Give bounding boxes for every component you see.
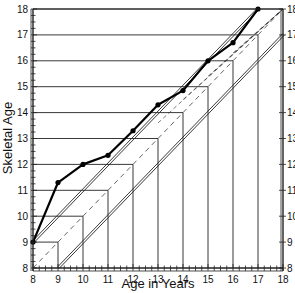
data-point	[130, 128, 135, 133]
x-axis-label: Age in Years	[121, 276, 195, 291]
upper-bound-line	[33, 8, 258, 241]
y-tick-label-right: 12	[287, 159, 295, 170]
y-tick-label-left: 16	[17, 55, 29, 66]
x-tick-label: 8	[30, 274, 36, 285]
y-tick-label-right: 8	[287, 263, 293, 274]
data-point	[80, 162, 85, 167]
data-point	[205, 58, 210, 63]
y-tick-label-right: 17	[287, 29, 295, 40]
y-tick-label-right: 11	[287, 185, 295, 196]
data-line	[33, 9, 258, 242]
y-tick-label-right: 15	[287, 81, 295, 92]
data-series	[30, 6, 260, 244]
y-tick-label-left: 10	[17, 211, 29, 222]
y-tick-label-right: 14	[287, 107, 295, 118]
y-tick-label-right: 16	[287, 55, 295, 66]
y-tick-label-left: 8	[22, 263, 28, 274]
x-tick-label: 16	[227, 274, 239, 285]
y-tick-label-left: 14	[17, 107, 29, 118]
data-point	[55, 180, 60, 185]
x-tick-label: 10	[77, 274, 89, 285]
y-tick-label-right: 10	[287, 211, 295, 222]
y-tick-label-right: 18	[287, 4, 295, 15]
y-tick-label-right: 13	[287, 133, 295, 144]
x-tick-label: 9	[55, 274, 61, 285]
upper-bound-line	[35, 9, 260, 242]
y-axis-label: Skeletal Age	[0, 102, 15, 174]
x-tick-label: 15	[202, 274, 214, 285]
data-point	[180, 88, 185, 93]
lower-bound-line	[58, 33, 283, 266]
y-tick-label-right: 9	[287, 237, 293, 248]
x-tick-label: 17	[252, 274, 264, 285]
data-point	[230, 40, 235, 45]
y-tick-label-left: 13	[17, 133, 29, 144]
y-tick-label-left: 15	[17, 81, 29, 92]
dashed-fan-lines	[158, 9, 283, 123]
y-tick-label-left: 18	[17, 4, 29, 15]
data-point	[155, 102, 160, 107]
x-tick-label: 11	[103, 274, 114, 285]
lower-bound-line	[60, 35, 285, 268]
x-tick-label: 18	[277, 274, 289, 285]
y-tick-label-left: 12	[17, 159, 29, 170]
y-tick-label-left: 17	[17, 29, 29, 40]
data-point	[105, 153, 110, 158]
y-tick-label-left: 9	[22, 237, 28, 248]
y-tick-label-left: 11	[18, 185, 29, 196]
axes	[31, 9, 283, 271]
skeletal-age-chart: 89101112131415161718 8899101011111212131…	[0, 0, 295, 293]
reference-lines	[33, 8, 285, 269]
